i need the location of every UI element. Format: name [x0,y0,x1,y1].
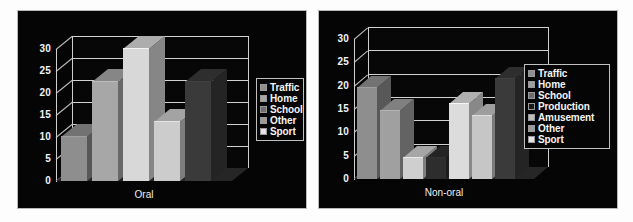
bar-oral-traffic[interactable] [61,137,87,181]
legend-item[interactable]: School [528,90,605,101]
legend-item[interactable]: School [260,104,299,115]
legend-label: Home [270,93,297,104]
legend-label: Sport [270,126,296,137]
axis-depth-line [56,36,73,50]
bar-oral-sport[interactable] [185,82,211,181]
bar-front-face [380,110,400,179]
bar-oral-other[interactable] [154,122,180,181]
bar-front-face [426,157,446,179]
axis-depth-line [354,27,369,40]
bar-front-face [154,121,180,181]
y-tick-label: 0 [331,174,349,184]
legend-item[interactable]: Other [528,123,605,134]
y-tick-label: 5 [331,151,349,161]
legend-label: Sport [538,134,564,145]
plot-area-oral: 051015202530OralTrafficHomeSchoolOtherSp… [18,11,306,208]
bar-oral-home[interactable] [92,82,118,181]
legend-swatch [260,84,267,91]
bar-front-face [185,81,211,181]
legend-label: Production [538,101,590,112]
legend-non-oral[interactable]: TrafficHomeSchoolProductionAmusementOthe… [524,64,610,149]
y-tick-label: 30 [331,34,349,44]
back-wall-right-edge [248,36,249,168]
legend-swatch [528,125,535,132]
legend-swatch [260,95,267,102]
figure-canvas: 051015202530OralTrafficHomeSchoolOtherSp… [0,0,633,222]
chart-panel-oral: 051015202530OralTrafficHomeSchoolOtherSp… [17,10,307,209]
legend-swatch [528,114,535,121]
bar-front-face [472,115,492,179]
plot-area-non-oral: 051015202530Non-oralTrafficHomeSchoolPro… [319,11,617,208]
legend-item[interactable]: Amusement [528,112,605,123]
legend-oral[interactable]: TrafficHomeSchoolOtherSport [256,78,304,141]
legend-item[interactable]: Home [260,93,299,104]
bar-non-oral-traffic[interactable] [357,88,377,179]
legend-label: School [270,104,303,115]
legend-swatch [528,103,535,110]
bar-front-face [449,103,469,179]
axis-depth-line [354,50,369,63]
gridline [368,50,548,51]
bar-front-face [495,78,515,179]
axis-depth-line [56,102,73,116]
axis-depth-line [56,58,73,72]
legend-swatch [528,136,535,143]
y-axis-line [354,39,355,180]
legend-item[interactable]: Traffic [528,68,605,79]
y-tick-label: 20 [33,88,51,98]
bar-non-oral-amusement[interactable] [449,104,469,179]
legend-swatch [528,92,535,99]
y-tick-label: 0 [33,176,51,186]
legend-label: Other [538,123,564,134]
bar-front-face [123,48,149,181]
legend-item[interactable]: Production [528,101,605,112]
y-tick-label: 25 [33,66,51,76]
category-label-non-oral: Non-oral [354,187,534,198]
bar-front-face [403,157,423,179]
legend-swatch [260,106,267,113]
y-tick-label: 15 [331,104,349,114]
legend-swatch [260,117,267,124]
y-tick-label: 5 [33,154,51,164]
legend-label: Traffic [538,68,567,79]
legend-item[interactable]: Other [260,115,299,126]
y-tick-label: 20 [331,81,349,91]
legend-label: Traffic [270,82,299,93]
category-label-oral: Oral [56,189,232,200]
y-tick-label: 10 [331,127,349,137]
bar-non-oral-other[interactable] [472,116,492,179]
legend-item[interactable]: Sport [528,134,605,145]
legend-item[interactable]: Home [528,79,605,90]
bar-front-face [92,81,118,181]
gridline [368,27,548,28]
legend-item[interactable]: Sport [260,126,299,137]
legend-swatch [528,81,535,88]
legend-label: Other [270,115,296,126]
bar-non-oral-school[interactable] [403,158,423,179]
legend-label: Home [538,79,565,90]
chart-panel-non-oral: 051015202530Non-oralTrafficHomeSchoolPro… [318,10,618,209]
bar-front-face [61,136,87,181]
legend-label: School [538,90,571,101]
bar-non-oral-production[interactable] [426,158,446,179]
y-tick-label: 10 [33,132,51,142]
bar-non-oral-sport[interactable] [495,79,515,179]
bar-oral-school[interactable] [123,49,149,181]
legend-swatch [528,70,535,77]
bar-non-oral-home[interactable] [380,111,400,179]
legend-swatch [260,128,267,135]
legend-item[interactable]: Traffic [260,82,299,93]
bar-side-face [211,69,227,181]
bar-front-face [357,87,377,179]
y-axis-line [56,49,57,182]
y-tick-label: 30 [33,44,51,54]
legend-label: Amusement [538,112,594,123]
y-tick-label: 25 [331,57,349,67]
y-tick-label: 15 [33,110,51,120]
axis-depth-line [56,80,73,94]
